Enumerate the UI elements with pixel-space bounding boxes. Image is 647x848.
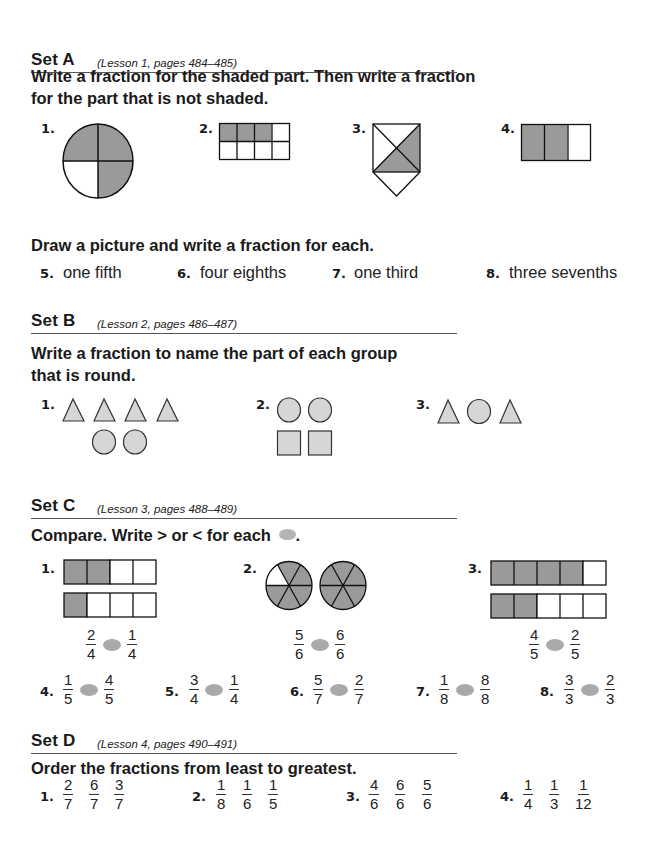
set-c-item-1-number: 1. [41, 561, 55, 576]
set-a-item-6-number: 6. [177, 266, 191, 281]
set-b-item-3-number: 3. [416, 397, 430, 412]
set-c-item-8-left-fraction: 33 [564, 672, 574, 707]
set-a-item-7-number: 7. [332, 266, 346, 281]
set-d-item-4-fraction: 112 [575, 777, 592, 812]
set-c-item-7-left-fraction: 18 [439, 672, 449, 707]
set-b-lesson: (Lesson 2, pages 486–487) [97, 318, 237, 330]
set-a-item-8-text: three sevenths [509, 263, 617, 282]
set-c-item-2-right-fraction: 6 6 [335, 627, 345, 662]
set-c-item-3-number: 3. [468, 561, 482, 576]
set-d-item-3-fraction: 46 [369, 777, 379, 812]
set-a-item-2-number: 2. [199, 121, 213, 136]
triangle-icon [63, 399, 84, 421]
set-d-item-2-number: 2. [192, 789, 206, 804]
compare-oval-input[interactable] [103, 639, 121, 651]
set-c-title: Set C [31, 496, 75, 516]
compare-oval-input[interactable] [80, 684, 98, 696]
set-d-item-1-fraction: 67 [89, 777, 99, 812]
set-b-header: Set B (Lesson 2, pages 486–487) [31, 309, 457, 334]
set-c-item-6-right-fraction: 27 [354, 672, 364, 707]
set-c-item-3-left-fraction: 4 5 [529, 627, 539, 662]
triangle-icon [94, 399, 115, 421]
circle-icon [278, 398, 301, 422]
set-b-item-1-shapes [60, 396, 185, 458]
compare-oval-input[interactable] [546, 639, 564, 651]
set-d-item-2-fraction: 16 [242, 777, 252, 812]
square-icon [278, 431, 301, 455]
set-a-item-1-number: 1. [41, 121, 55, 136]
set-b-item-2-number: 2. [256, 397, 270, 412]
compare-oval-input[interactable] [330, 684, 348, 696]
compare-oval-input[interactable] [456, 684, 474, 696]
set-c-instruction: Compare. Write > or < for each . [31, 523, 300, 547]
circle-icon [93, 430, 116, 454]
set-d-title: Set D [31, 731, 75, 751]
set-a-item-3-pentagon-icon [372, 123, 422, 199]
set-d-item-2-fraction: 15 [268, 777, 278, 812]
set-c-item-6-left-fraction: 57 [313, 672, 323, 707]
set-d-item-4-number: 4. [500, 789, 514, 804]
set-a-item-6-text: four eighths [200, 263, 286, 282]
circle-icon [124, 430, 147, 454]
triangle-icon [500, 400, 521, 423]
set-d-header: Set D (Lesson 4, pages 490–491) [31, 729, 457, 754]
square-icon [309, 431, 332, 455]
set-a-item-1-circle-icon [62, 123, 134, 199]
set-c-item-2-pies-icon [264, 560, 370, 612]
set-c-item-7-right-fraction: 88 [480, 672, 490, 707]
set-c-instruction-end: . [296, 526, 301, 544]
set-a-item-8-number: 8. [486, 266, 500, 281]
set-a-item-5-number: 5. [40, 266, 54, 281]
set-c-item-2-left-fraction: 5 6 [294, 627, 304, 662]
set-b-title: Set B [31, 311, 75, 331]
set-c-item-2-number: 2. [243, 561, 257, 576]
set-b-instruction-2: that is round. [31, 363, 136, 387]
compare-oval-input[interactable] [581, 684, 599, 696]
set-d-instruction: Order the fractions from least to greate… [31, 756, 357, 780]
triangle-icon [438, 400, 459, 423]
set-c-item-5-number: 5. [165, 684, 179, 699]
set-c-item-6-number: 6. [290, 684, 304, 699]
triangle-icon [125, 399, 146, 421]
set-c-item-5-right-fraction: 14 [229, 672, 239, 707]
set-b-item-2-shapes [275, 396, 337, 458]
set-c-item-1-right-fraction: 1 4 [127, 627, 137, 662]
set-c-lesson: (Lesson 3, pages 488–489) [97, 503, 237, 515]
set-c-item-4-right-fraction: 45 [104, 672, 114, 707]
set-c-item-4-number: 4. [40, 684, 54, 699]
set-b-item-1-number: 1. [41, 397, 55, 412]
set-c-item-1-left-fraction: 2 4 [86, 627, 96, 662]
compare-oval-input[interactable] [311, 639, 329, 651]
set-a-item-4-bar-icon [521, 124, 592, 162]
set-d-item-4-fraction: 13 [549, 777, 559, 812]
set-a-draw-instruction: Draw a picture and write a fraction for … [31, 233, 374, 257]
set-a-item-7-text: one third [354, 263, 418, 282]
set-c-item-3-right-fraction: 2 5 [570, 627, 580, 662]
set-c-item-7-number: 7. [416, 684, 430, 699]
set-a-item-2-grid-icon [219, 123, 290, 161]
set-c-item-1-bars-icon [63, 559, 159, 619]
set-a-item-4-number: 4. [501, 121, 515, 136]
set-c-item-8-right-fraction: 23 [605, 672, 615, 707]
set-b-instruction-1: Write a fraction to name the part of eac… [31, 341, 397, 365]
set-d-lesson: (Lesson 4, pages 490–491) [97, 738, 237, 750]
set-a-instruction-1: Write a fraction for the shaded part. Th… [31, 64, 475, 88]
circle-icon [309, 398, 332, 422]
set-c-header: Set C (Lesson 3, pages 488–489) [31, 494, 457, 519]
set-b-item-3-shapes [437, 398, 527, 426]
set-a-item-5-text: one fifth [63, 263, 122, 282]
compare-oval-input[interactable] [205, 684, 223, 696]
set-d-item-1-fraction: 27 [63, 777, 73, 812]
set-d-item-1-fraction: 37 [114, 777, 124, 812]
set-c-item-5-left-fraction: 34 [189, 672, 199, 707]
set-a-instruction-2: for the part that is not shaded. [31, 86, 268, 110]
set-a-item-3-number: 3. [352, 121, 366, 136]
set-d-item-2-fraction: 18 [216, 777, 226, 812]
set-d-item-1-number: 1. [40, 789, 54, 804]
circle-icon [468, 400, 491, 424]
set-d-item-4-fraction: 14 [523, 777, 533, 812]
set-c-instruction-text: Compare. Write > or < for each [31, 526, 271, 544]
set-c-item-3-bars-icon [490, 560, 608, 620]
compare-oval-icon [279, 529, 296, 540]
set-c-item-4-left-fraction: 15 [63, 672, 73, 707]
